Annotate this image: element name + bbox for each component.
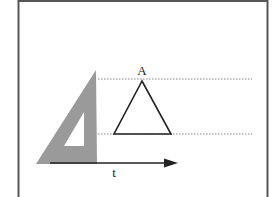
diagram-canvas: A t [0, 0, 273, 197]
set-square-body [36, 70, 97, 164]
vertex-label-a: A [137, 63, 147, 78]
axis-label-t: t [112, 165, 116, 180]
arrow-head-icon [164, 159, 178, 168]
set-square-icon [36, 70, 97, 164]
frame [18, 0, 268, 197]
triangle-a [114, 81, 171, 134]
guide-lines [98, 79, 252, 134]
